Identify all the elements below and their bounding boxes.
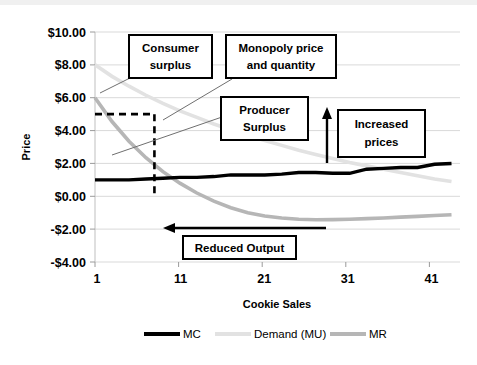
x-tick-labels: 1 11 21 31 41 [94, 272, 439, 286]
y-axis-title: Price [20, 134, 32, 161]
x-tick-label: 21 [257, 272, 271, 286]
y-tick-labels: $10.00 $8.00 $6.00 $4.00 $2.00 $0.00 -$2… [48, 26, 86, 270]
leader-producer-surplus [112, 117, 222, 155]
y-tick-label: $6.00 [55, 91, 86, 105]
x-axis-title: Cookie Sales [243, 298, 311, 310]
x-tick-label: 1 [94, 272, 101, 286]
x-tick-label: 11 [174, 272, 187, 286]
y-tick-label: -$4.00 [51, 256, 86, 270]
legend-label-mr: MR [369, 328, 387, 340]
top-edge-artifact [0, 0, 477, 5]
y-tick-label: $0.00 [55, 190, 86, 204]
producer-surplus-label-line1: Producer [239, 104, 290, 116]
consumer-surplus-label-line2: surplus [150, 59, 192, 71]
x-axis [95, 262, 429, 267]
chart-container: $10.00 $8.00 $6.00 $4.00 $2.00 $0.00 -$2… [0, 0, 477, 365]
annotation-producer-surplus[interactable]: Producer Surplus [221, 97, 308, 140]
x-tick-label: 31 [341, 272, 355, 286]
y-tick-label: $10.00 [48, 26, 86, 40]
annotation-leader-lines [100, 78, 232, 155]
legend-label-demand: Demand (MU) [254, 328, 326, 340]
x-tick-label: 41 [424, 272, 438, 286]
consumer-surplus-label-line1: Consumer [142, 42, 199, 54]
increased-prices-label-line2: prices [365, 136, 399, 148]
annotation-monopoly-price-and-quantity[interactable]: Monopoly price and quantity [226, 35, 336, 78]
reduced-output-label: Reduced Output [195, 242, 285, 254]
left-arrow-icon [163, 223, 326, 233]
producer-surplus-label-line2: Surplus [243, 121, 286, 133]
increased-prices-label-line1: Increased [355, 118, 409, 130]
monopoly-price-label-line2: and quantity [247, 59, 316, 71]
annotation-reduced-output[interactable]: Reduced Output [163, 223, 326, 259]
monopoly-price-label-line1: Monopoly price [239, 42, 324, 54]
y-tick-label: -$2.00 [51, 223, 86, 237]
economics-monopoly-chart: $10.00 $8.00 $6.00 $4.00 $2.00 $0.00 -$2… [0, 0, 477, 365]
y-tick-label: $4.00 [55, 124, 86, 138]
y-tick-label: $8.00 [55, 58, 86, 72]
y-tick-label: $2.00 [55, 157, 86, 171]
annotation-consumer-surplus[interactable]: Consumer surplus [129, 35, 212, 78]
legend-label-mc: MC [183, 328, 201, 340]
chart-legend: MC Demand (MU) MR [144, 328, 387, 340]
annotation-increased-prices[interactable]: Increased prices [322, 107, 425, 163]
